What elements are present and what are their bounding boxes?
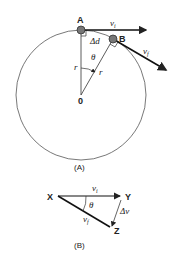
figure-b: X Y Z θ vi vf Δv (B) xyxy=(47,183,131,250)
label-radius-right: r xyxy=(99,67,103,77)
label-radius-left: r xyxy=(74,62,78,72)
label-arc-length: Δd xyxy=(89,36,100,46)
label-vertex-z: Z xyxy=(114,226,120,236)
particle-b xyxy=(109,35,117,43)
label-angle-b: θ xyxy=(89,200,94,210)
label-vertex-x: X xyxy=(47,192,53,202)
label-point-a: A xyxy=(77,15,84,25)
label-delta-v: Δv xyxy=(119,206,129,216)
angle-arc-b xyxy=(83,196,86,211)
label-initial-velocity-b: vi xyxy=(92,183,98,194)
label-final-velocity-a: vf xyxy=(143,46,150,57)
caption-a: (A) xyxy=(74,163,85,172)
label-initial-velocity-a: vi xyxy=(110,18,116,29)
particle-a xyxy=(77,26,85,34)
figure-a: A B 0 r r θ Δd vi vf (A) xyxy=(16,15,166,172)
angle-arc xyxy=(81,68,95,72)
label-vertex-y: Y xyxy=(125,192,131,202)
label-final-velocity-b: vf xyxy=(83,214,90,225)
circular-motion-diagram: A B 0 r r θ Δd vi vf (A) X Y Z θ vi vf Δ… xyxy=(0,0,177,261)
radius-ob xyxy=(81,39,113,95)
caption-b: (B) xyxy=(74,241,85,250)
label-point-b: B xyxy=(119,34,126,44)
label-angle-a: θ xyxy=(91,52,96,62)
label-center: 0 xyxy=(78,96,83,106)
